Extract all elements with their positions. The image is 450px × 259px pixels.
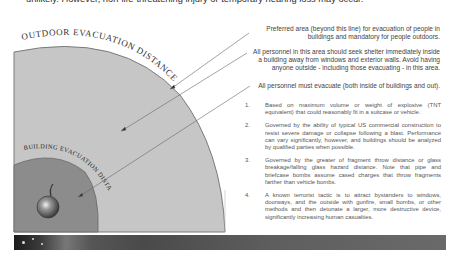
- footnotes-list: 1. Based on maximum volume or weight of …: [243, 102, 441, 227]
- callout-evacuate-all: All personnel must evacuate (both inside…: [228, 82, 440, 90]
- callout-outdoor-zone: Preferred area (beyond this line) for ev…: [244, 25, 440, 41]
- decorative-banner: [14, 235, 446, 250]
- footnote: 2. Governed by the ability of typical US…: [243, 122, 441, 151]
- callout-shelter-zone: All personnel in this area should seek s…: [228, 48, 440, 72]
- footnote: 4. A known terrorist tactic is to attrac…: [243, 192, 441, 221]
- footnote: 1. Based on maximum volume or weight of …: [243, 102, 441, 116]
- banner-sparkle: [32, 238, 34, 240]
- banner-sparkle: [41, 243, 43, 245]
- footnote: 3. Governed by the greater of fragment t…: [243, 157, 441, 186]
- banner-sparkle: [22, 241, 25, 244]
